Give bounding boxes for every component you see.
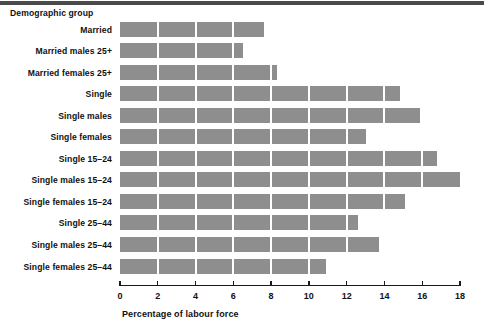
- bar-segment-divider: [157, 22, 159, 37]
- bar-segment-divider: [346, 151, 348, 166]
- bar-segment-divider: [270, 172, 272, 187]
- bar-segment-divider: [157, 215, 159, 230]
- bar-segment-divider: [157, 151, 159, 166]
- bar-segment-divider: [383, 108, 385, 123]
- bar-segment-dividers: [120, 43, 243, 58]
- bar: [120, 86, 400, 101]
- bar-segment-dividers: [120, 259, 326, 274]
- x-axis-tick: [422, 281, 423, 286]
- x-axis-tick-label: 12: [336, 291, 358, 301]
- x-axis-tick: [233, 281, 234, 286]
- chart-figure: Demographic group MarriedMarried males 2…: [0, 0, 484, 326]
- bar-segment-divider: [232, 194, 234, 209]
- bar-segment-divider: [383, 86, 385, 101]
- bar-segment-divider: [270, 65, 272, 80]
- bar-segment-divider: [383, 151, 385, 166]
- bar-segment-divider: [270, 215, 272, 230]
- bar: [120, 172, 460, 187]
- category-label: Single 15–24: [0, 154, 112, 164]
- x-axis-tick-label: 16: [411, 291, 433, 301]
- x-axis-tick-label: 14: [373, 291, 395, 301]
- category-label: Married females 25+: [0, 68, 112, 78]
- bar-segment-divider: [232, 86, 234, 101]
- bar-segment-divider: [195, 65, 197, 80]
- bar-segment-divider: [270, 151, 272, 166]
- x-axis-line: [120, 285, 460, 286]
- bar-segment-divider: [195, 129, 197, 144]
- bar-segment-divider: [308, 151, 310, 166]
- bar: [120, 259, 326, 274]
- bar-segment-divider: [308, 129, 310, 144]
- bar-segment-divider: [308, 259, 310, 274]
- bar-segment-divider: [157, 172, 159, 187]
- bar-segment-divider: [270, 237, 272, 252]
- x-axis-title: Percentage of labour force: [122, 309, 239, 319]
- x-axis-tick-label: 18: [449, 291, 471, 301]
- bar-segment-divider: [157, 237, 159, 252]
- category-label: Married: [0, 25, 112, 35]
- x-axis-tick-label: 8: [260, 291, 282, 301]
- bar-segment-divider: [157, 129, 159, 144]
- bar-segment-dividers: [120, 108, 420, 123]
- bar-segment-divider: [346, 172, 348, 187]
- bar-segment-divider: [232, 215, 234, 230]
- x-axis-tick-label: 0: [109, 291, 131, 301]
- category-label: Single females: [0, 132, 112, 142]
- bar-segment-dividers: [120, 129, 366, 144]
- category-label: Single: [0, 89, 112, 99]
- bar-segment-divider: [195, 151, 197, 166]
- bar-segment-divider: [232, 22, 234, 37]
- bar-segment-dividers: [120, 151, 437, 166]
- category-label: Single males: [0, 111, 112, 121]
- bar-segment-divider: [346, 215, 348, 230]
- bar-segment-divider: [346, 237, 348, 252]
- x-axis-tick-label: 4: [185, 291, 207, 301]
- x-axis-tick: [308, 281, 309, 286]
- bar-segment-divider: [157, 108, 159, 123]
- bar-segment-divider: [383, 194, 385, 209]
- bar: [120, 129, 366, 144]
- bar-segment-divider: [195, 86, 197, 101]
- bar: [120, 43, 243, 58]
- x-axis-tick-label: 2: [147, 291, 169, 301]
- bar-segment-divider: [308, 194, 310, 209]
- bar-segment-divider: [195, 259, 197, 274]
- bar-segment-divider: [308, 172, 310, 187]
- bar: [120, 237, 379, 252]
- category-label: Single 25–44: [0, 218, 112, 228]
- bar-segment-divider: [195, 237, 197, 252]
- bar-segment-divider: [195, 172, 197, 187]
- bar-segment-divider: [308, 215, 310, 230]
- bar-segment-divider: [270, 259, 272, 274]
- bar-segment-divider: [270, 86, 272, 101]
- bar-segment-divider: [346, 108, 348, 123]
- category-label: Single females 15–24: [0, 197, 112, 207]
- category-label: Married males 25+: [0, 46, 112, 56]
- bar-segment-divider: [157, 194, 159, 209]
- bar-segment-divider: [308, 86, 310, 101]
- bar-segment-dividers: [120, 22, 264, 37]
- bar-segment-dividers: [120, 237, 379, 252]
- bar-segment-dividers: [120, 65, 277, 80]
- bar-segment-divider: [308, 108, 310, 123]
- bar-segment-divider: [195, 22, 197, 37]
- bar-segment-dividers: [120, 215, 358, 230]
- x-axis-tick-label: 6: [222, 291, 244, 301]
- bar-segment-divider: [232, 237, 234, 252]
- bar-segment-divider: [232, 172, 234, 187]
- x-axis-tick: [346, 281, 347, 286]
- bar-segment-divider: [270, 129, 272, 144]
- bar-segment-divider: [346, 194, 348, 209]
- bar: [120, 194, 405, 209]
- bar-segment-divider: [195, 43, 197, 58]
- bar-segment-divider: [421, 172, 423, 187]
- bar-segment-divider: [195, 194, 197, 209]
- bar: [120, 108, 420, 123]
- bar-segment-divider: [157, 43, 159, 58]
- bar: [120, 65, 277, 80]
- bar-segment-divider: [232, 65, 234, 80]
- bar: [120, 151, 437, 166]
- bar-segment-dividers: [120, 86, 400, 101]
- bar-segment-divider: [346, 86, 348, 101]
- bar-segment-divider: [232, 259, 234, 274]
